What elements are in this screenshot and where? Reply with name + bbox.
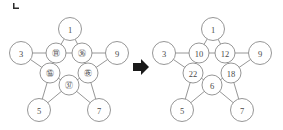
star-diagram-solved: 1 3 9 5 7 10 [153,18,272,122]
outer-node-top[interactable]: 1 [59,18,82,41]
inner-node-right[interactable]: ㊰ [78,63,98,83]
node-label: 12 [221,49,230,59]
edge-group-right [164,29,260,110]
outer-node-left[interactable]: 3 [153,42,176,65]
node-label: 5 [180,106,184,116]
node-label: 18 [227,69,236,79]
inner-node-left[interactable]: ㊯ [40,63,60,83]
inner-node-top-right[interactable]: 12 [215,43,235,63]
node-label: 22 [189,69,198,79]
outer-node-bottom-left[interactable]: 5 [28,99,51,122]
node-label: ㊰ [84,69,92,78]
node-label: ㊲ [65,81,73,90]
crop-corner-mark [12,2,21,11]
inner-node-right[interactable]: 18 [221,63,241,83]
node-label: 10 [195,49,204,59]
inner-node-top-left[interactable]: 10 [189,43,209,63]
outer-node-top[interactable]: 1 [202,18,225,41]
outer-node-right[interactable]: 9 [249,42,272,65]
inner-node-top-left[interactable]: ㊮ [46,43,66,63]
node-label: 3 [162,49,166,59]
outer-node-bottom-right[interactable]: 7 [88,99,111,122]
inner-node-top-right[interactable]: ㊱ [72,43,92,63]
star-diagrams-svg: 1 3 9 5 7 ㊮ [0,0,283,130]
node-label: 9 [258,49,262,59]
node-label: 5 [37,106,41,116]
node-label: 3 [19,49,23,59]
node-label: 9 [115,49,119,59]
node-label: 7 [97,106,101,116]
node-label: 1 [68,25,72,35]
star-diagram-unsolved: 1 3 9 5 7 ㊮ [10,18,129,122]
inner-node-bottom[interactable]: ㊲ [59,75,79,95]
outer-node-bottom-right[interactable]: 7 [231,99,254,122]
inner-node-bottom[interactable]: 6 [202,75,222,95]
node-label: ㊯ [46,69,54,78]
node-label: ㊱ [78,49,86,58]
inner-node-left[interactable]: 22 [183,63,203,83]
outer-node-left[interactable]: 3 [10,42,33,65]
node-label: 6 [210,81,214,91]
edge-group-left [21,29,117,110]
diagram-stage: 1 3 9 5 7 ㊮ [0,0,283,130]
outer-node-right[interactable]: 9 [106,42,129,65]
node-label: 7 [240,106,244,116]
node-label: 1 [211,25,215,35]
node-label: ㊮ [52,49,60,58]
outer-node-bottom-left[interactable]: 5 [171,99,194,122]
right-arrow-icon [133,59,149,75]
